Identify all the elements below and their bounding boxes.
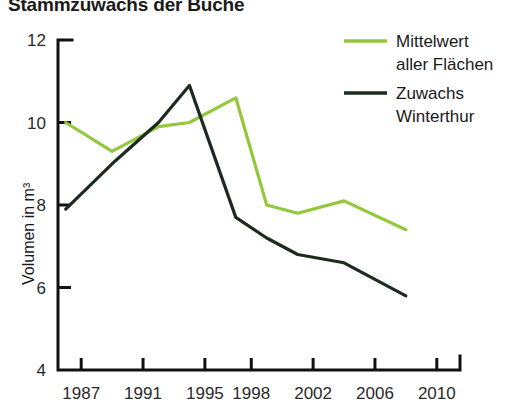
y-tick-label: 10 bbox=[27, 114, 46, 133]
x-axis-tick-labels: 1987199119951998200220062010 bbox=[62, 384, 455, 403]
legend-label-1-line2: Winterthur bbox=[396, 107, 475, 126]
data-series-group bbox=[66, 85, 406, 295]
x-tick-label: 1987 bbox=[62, 384, 100, 403]
y-tick-label: 8 bbox=[37, 196, 46, 215]
x-tick-label: 1991 bbox=[124, 384, 162, 403]
y-tick-label: 4 bbox=[37, 361, 46, 380]
series-line-1 bbox=[66, 85, 406, 295]
y-axis-title: Volumen in m³ bbox=[20, 182, 37, 285]
legend-label-0-line2: aller Flächen bbox=[396, 55, 493, 74]
x-tick-label: 1995 bbox=[186, 384, 224, 403]
chart-legend: Mittelwertaller FlächenZuwachsWinterthur bbox=[344, 32, 493, 126]
y-tick-label: 6 bbox=[37, 279, 46, 298]
x-tick-label: 2006 bbox=[356, 384, 394, 403]
chart-container: Stammzuwachs der Buche 4681012 198719911… bbox=[0, 0, 509, 410]
legend-label-0: Mittelwert bbox=[396, 32, 469, 51]
y-tick-label: 12 bbox=[27, 31, 46, 50]
x-tick-label: 2010 bbox=[418, 384, 456, 403]
x-tick-label: 1998 bbox=[232, 384, 270, 403]
chart-plot-area: 4681012 1987199119951998200220062010 Vol… bbox=[0, 0, 509, 410]
series-line-0 bbox=[66, 98, 406, 230]
x-tick-label: 2002 bbox=[294, 384, 332, 403]
legend-label-1: Zuwachs bbox=[396, 84, 464, 103]
